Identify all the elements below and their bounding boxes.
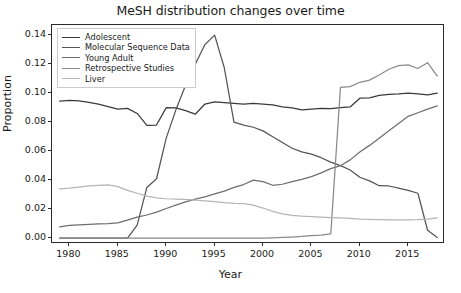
legend-item[interactable]: Adolescent	[62, 32, 190, 42]
legend-label: Retrospective Studies	[85, 63, 174, 73]
legend-item[interactable]: Retrospective Studies	[62, 63, 190, 73]
x-tick-label: 2015	[387, 248, 427, 259]
legend-label: Molecular Sequence Data	[85, 42, 190, 52]
x-tick-mark	[68, 243, 69, 246]
chart-legend: AdolescentMolecular Sequence DataYoung A…	[57, 28, 196, 88]
legend-swatch-icon	[62, 68, 80, 69]
x-axis-label: Year	[0, 268, 461, 281]
series-line	[60, 185, 438, 220]
x-tick-mark	[310, 243, 311, 246]
legend-label: Young Adult	[85, 53, 133, 63]
chart-figure: MeSH distribution changes over time Prop…	[0, 0, 461, 293]
legend-item[interactable]: Liver	[62, 74, 190, 84]
y-tick-label: 0.02	[12, 202, 46, 213]
x-tick-label: 2000	[242, 248, 282, 259]
x-tick-label: 1995	[194, 248, 234, 259]
x-tick-label: 1990	[145, 248, 185, 259]
y-tick-label: 0.14	[12, 28, 46, 39]
x-tick-mark	[407, 243, 408, 246]
y-tick-label: 0.00	[12, 231, 46, 242]
x-tick-mark	[117, 243, 118, 246]
series-line	[60, 63, 438, 238]
x-tick-label: 2005	[290, 248, 330, 259]
legend-item[interactable]: Molecular Sequence Data	[62, 42, 190, 52]
x-tick-mark	[359, 243, 360, 246]
y-tick-label: 0.04	[12, 173, 46, 184]
chart-title: MeSH distribution changes over time	[0, 3, 461, 18]
series-line	[60, 106, 438, 227]
legend-item[interactable]: Young Adult	[62, 53, 190, 63]
x-tick-label: 1980	[48, 248, 88, 259]
x-tick-mark	[214, 243, 215, 246]
x-tick-label: 2010	[339, 248, 379, 259]
legend-label: Liver	[85, 74, 105, 84]
legend-swatch-icon	[62, 37, 80, 38]
y-tick-label: 0.10	[12, 86, 46, 97]
y-tick-label: 0.08	[12, 115, 46, 126]
legend-swatch-icon	[62, 57, 80, 58]
legend-swatch-icon	[62, 47, 80, 48]
series-line	[60, 93, 438, 125]
legend-swatch-icon	[62, 78, 80, 79]
x-tick-label: 1985	[97, 248, 137, 259]
x-tick-mark	[262, 243, 263, 246]
y-tick-label: 0.12	[12, 57, 46, 68]
legend-label: Adolescent	[85, 32, 130, 42]
x-tick-mark	[165, 243, 166, 246]
y-tick-label: 0.06	[12, 144, 46, 155]
